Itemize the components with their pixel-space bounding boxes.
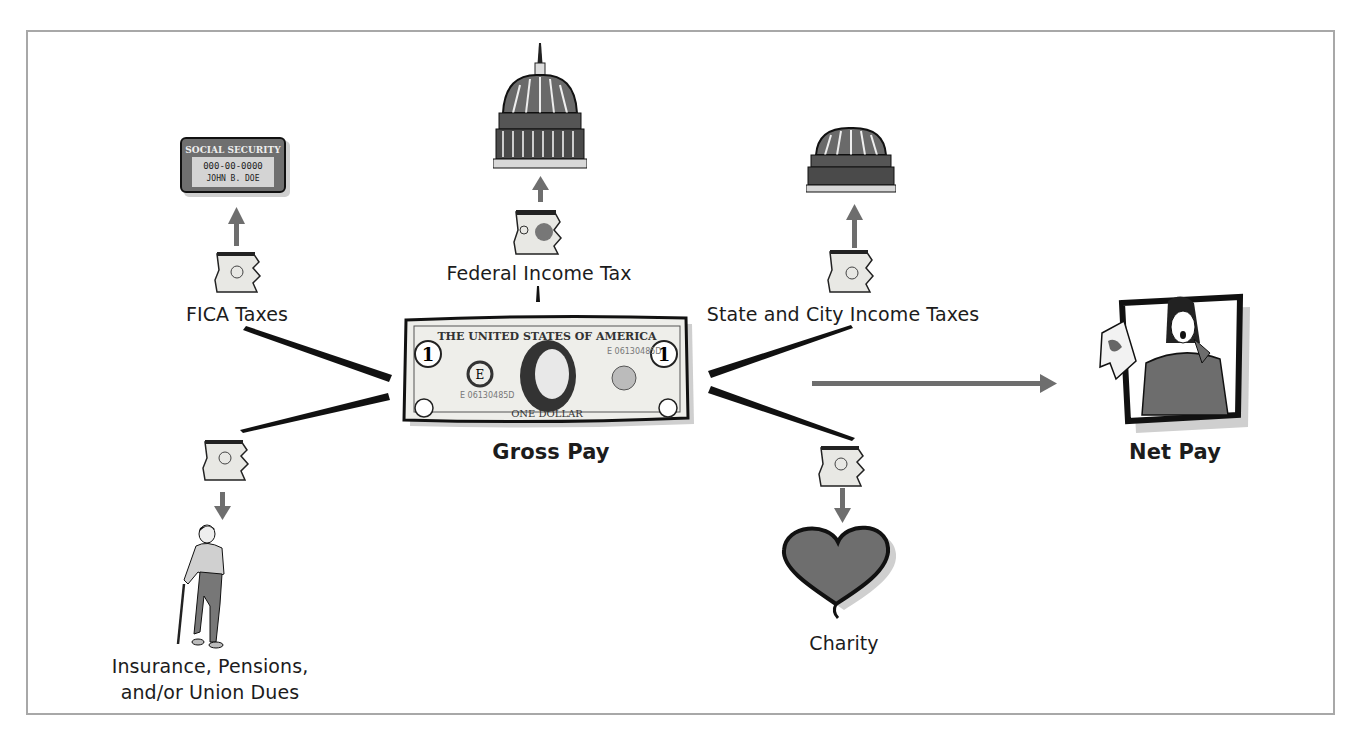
heart-icon <box>778 522 898 622</box>
svg-text:ONE DOLLAR: ONE DOLLAR <box>511 408 583 419</box>
svg-text:JOHN B. DOE: JOHN B. DOE <box>207 174 260 183</box>
svg-text:000-00-0000: 000-00-0000 <box>203 161 263 171</box>
label-state-city-income-taxes: State and City Income Taxes <box>707 303 979 325</box>
svg-text:SOCIAL SECURITY: SOCIAL SECURITY <box>185 145 281 155</box>
label-gross-pay: Gross Pay <box>492 440 609 464</box>
dollar-bill-icon: THE UNITED STATES OF AMERICA 1 1 E E 061… <box>402 314 694 428</box>
torn-bill-federal-icon <box>512 208 564 258</box>
label-charity: Charity <box>809 632 878 654</box>
svg-text:E 06130485D: E 06130485D <box>460 391 514 400</box>
torn-bill-state-icon <box>826 248 876 296</box>
label-insurance-line2: and/or Union Dues <box>121 681 300 703</box>
svg-text:1: 1 <box>422 344 435 365</box>
elderly-man-with-cane-icon <box>174 524 240 652</box>
label-insurance-line1: Insurance, Pensions, <box>112 655 309 677</box>
label-fica-taxes: FICA Taxes <box>186 303 288 325</box>
label-federal-income-tax: Federal Income Tax <box>446 262 631 284</box>
svg-text:E: E <box>476 368 485 382</box>
torn-bill-fica-icon <box>213 250 263 296</box>
torn-bill-charity-icon <box>817 444 867 490</box>
social-security-card-icon: SOCIAL SECURITY 000-00-0000 JOHN B. DOE <box>180 136 292 198</box>
torn-bill-insurance-icon <box>201 438 251 484</box>
us-capitol-dome-icon <box>493 43 587 169</box>
svg-text:E 06130485D: E 06130485D <box>607 347 661 356</box>
surprised-woman-holding-money-icon <box>1082 293 1252 433</box>
label-net-pay: Net Pay <box>1129 440 1221 464</box>
state-capitol-dome-icon <box>806 125 896 193</box>
